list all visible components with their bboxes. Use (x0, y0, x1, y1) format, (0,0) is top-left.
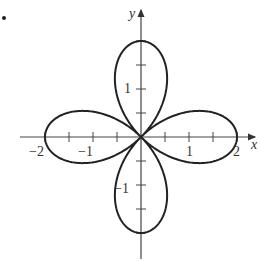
tick-label-x-pos2: 2 (233, 145, 240, 159)
tick-label-y-neg1: −1 (114, 182, 129, 196)
tick-label-x-pos1: 1 (186, 145, 193, 159)
tick-label-x-neg2: −2 (29, 145, 44, 159)
tick-label-x-neg1: −1 (78, 145, 93, 159)
y-axis-label: y (129, 7, 135, 21)
x-axis-label: x (251, 138, 257, 152)
polar-rose-plot (0, 0, 260, 261)
tick-label-y-pos1: 1 (124, 82, 131, 96)
